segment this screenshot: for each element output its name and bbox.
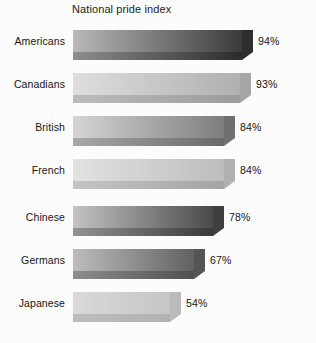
- bar-front-face: [73, 159, 224, 181]
- bar-row: Japanese54%: [0, 292, 316, 322]
- bar-front-face: [73, 292, 170, 314]
- bar-value-label: 54%: [186, 297, 207, 309]
- bar-front-face: [73, 206, 213, 228]
- bar-row: French84%: [0, 159, 316, 189]
- bar-end-cap: [213, 206, 224, 236]
- bar-bottom-face: [73, 228, 213, 236]
- bar-value-label: 84%: [240, 164, 261, 176]
- bar-row: Americans94%: [0, 30, 316, 60]
- chart-container: National pride index Americans94%Canadia…: [0, 0, 316, 343]
- chart-title: National pride index: [72, 3, 171, 15]
- bar-front-face: [73, 249, 194, 271]
- bar-end-cap: [224, 116, 235, 146]
- category-label: Germans: [21, 254, 65, 266]
- bar-bottom-face: [73, 271, 194, 279]
- bar-end-cap: [194, 249, 205, 279]
- bar-row: Germans67%: [0, 249, 316, 279]
- category-label: French: [32, 164, 65, 176]
- category-label: Canadians: [14, 78, 65, 90]
- bar-end-cap: [224, 159, 235, 189]
- bar-bottom-face: [73, 138, 224, 146]
- bar-value-label: 67%: [210, 254, 231, 266]
- bar-value-label: 78%: [229, 211, 250, 223]
- category-label: British: [35, 121, 65, 133]
- bar-bottom-face: [73, 181, 224, 189]
- bar-front-face: [73, 73, 240, 95]
- category-label: Japanese: [19, 297, 65, 309]
- bar-value-label: 84%: [240, 121, 261, 133]
- bar-front-face: [73, 30, 242, 52]
- bar-row: Chinese78%: [0, 206, 316, 236]
- bar-bottom-face: [73, 314, 170, 322]
- bar-bottom-face: [73, 52, 242, 60]
- bar-front-face: [73, 116, 224, 138]
- bar-end-cap: [170, 292, 181, 322]
- bar-row: Canadians93%: [0, 73, 316, 103]
- bar-end-cap: [242, 30, 253, 60]
- bar-bottom-face: [73, 95, 240, 103]
- bar-row: British84%: [0, 116, 316, 146]
- category-label: Americans: [15, 35, 66, 47]
- bar-value-label: 94%: [258, 35, 279, 47]
- bar-end-cap: [240, 73, 251, 103]
- category-label: Chinese: [26, 211, 65, 223]
- bar-value-label: 93%: [256, 78, 277, 90]
